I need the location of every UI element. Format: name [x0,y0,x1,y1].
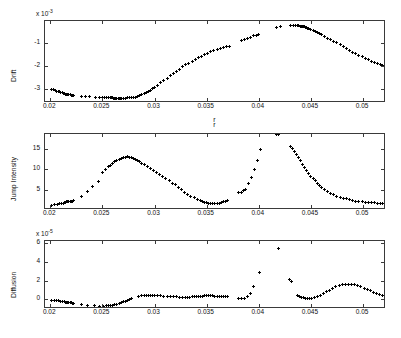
x-axis-tick [311,241,312,244]
x-axis-tick [155,98,156,101]
data-point [153,294,156,297]
data-point [370,60,373,63]
x-axis-tick [102,205,103,208]
data-point [378,293,381,296]
data-point [240,39,243,42]
data-point [225,45,228,48]
data-point [199,199,202,202]
data-point [196,198,199,201]
data-point [207,202,210,205]
data-point [122,300,125,303]
data-point [207,294,210,297]
data-point [120,301,123,304]
data-point [146,165,149,168]
data-point [322,292,325,295]
data-point [161,175,164,178]
data-point [65,200,68,203]
data-point [80,95,83,98]
data-point [55,299,58,302]
data-point [86,190,89,193]
x-axis-tick [102,304,103,307]
drift-data-points [45,21,384,101]
y-axis-tick [381,281,384,282]
data-point [228,45,231,48]
data-point [180,188,183,191]
drift-exponent-value: -3 [48,8,52,14]
data-point [314,30,317,33]
x-axis-tick-label: 0.02 [35,102,63,110]
data-point [60,202,63,205]
data-point [326,37,329,40]
data-point [169,295,172,298]
jump-data-points [45,134,384,208]
data-point [174,183,177,186]
data-point [189,195,192,198]
data-point [119,97,122,100]
data-point [307,172,310,175]
data-point [307,27,310,30]
y-axis-tick-label: 5 [22,185,40,193]
data-point [191,295,194,298]
data-point [318,32,321,35]
data-point [203,201,206,204]
x-axis-tick [311,205,312,208]
data-point [289,24,292,27]
diffusion-exponent-value: -5 [48,228,52,234]
x-axis-tick [155,205,156,208]
x-axis-tick [50,134,51,137]
data-point [143,163,146,166]
data-point [115,303,118,306]
data-point [130,156,133,159]
data-point [357,54,360,57]
data-point [88,95,91,98]
data-point [128,96,131,99]
data-point [199,295,202,298]
data-point [113,303,116,306]
x-axis-tick-label: 0.035 [192,209,220,217]
y-axis-tick [45,243,48,244]
x-axis-tick-label: 0.045 [296,209,324,217]
data-point [84,95,87,98]
data-point [186,296,189,299]
data-point [113,97,116,100]
data-point [218,295,221,298]
data-point [342,45,345,48]
data-point [300,296,303,299]
x-axis-tick-label: 0.04 [244,209,272,217]
data-point [143,92,146,95]
data-point [309,175,312,178]
data-point [201,295,204,298]
x-axis-tick [207,98,208,101]
y-axis-tick-label: 6 [22,238,40,246]
data-point [299,25,302,28]
x-axis-tick [259,98,260,101]
data-point [218,202,221,205]
data-point [351,51,354,54]
data-point [316,295,319,298]
data-point [381,294,384,297]
y-axis-tick [381,66,384,67]
data-point [175,70,178,73]
data-point [357,200,360,203]
data-point [63,201,66,204]
y-axis-tick-label: -3 [22,84,40,92]
data-point [107,165,110,168]
data-point [329,38,332,41]
data-point [302,25,305,28]
data-point [224,295,227,298]
data-point [152,169,155,172]
data-point [328,289,331,292]
data-point [130,297,133,300]
data-point [320,186,323,189]
data-point [181,296,184,299]
data-point [53,299,56,302]
data-point [290,280,293,283]
data-point [306,297,309,300]
data-point [124,97,127,100]
data-point [334,285,337,288]
x-axis-tick-label: 0.025 [87,102,115,110]
x-axis-tick-label: 0.03 [140,308,168,316]
data-point [159,294,162,297]
data-point [105,96,108,99]
data-point [113,160,116,163]
